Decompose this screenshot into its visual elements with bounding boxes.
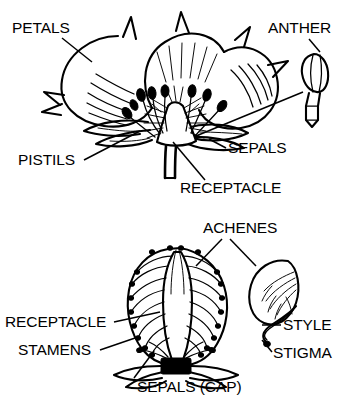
label-receptacle2: RECEPTACLE — [5, 313, 106, 330]
achene-dot — [128, 296, 133, 301]
achene-detail-drawing — [249, 260, 298, 346]
label-stigma: STIGMA — [273, 344, 333, 361]
anther-oval — [147, 86, 156, 99]
achene-dot — [131, 324, 136, 329]
anther-detail-drawing — [302, 54, 328, 127]
label-sepals: SEPALS — [228, 139, 287, 156]
achene-dot — [215, 324, 220, 329]
anther-oval — [187, 84, 196, 97]
botanical-figure: PETALS PISTILS ANTHER SEPALS RECEPTACLE — [0, 0, 354, 417]
dried-anther — [136, 347, 144, 354]
petal-right — [199, 47, 278, 128]
achene-dot — [219, 296, 224, 301]
flower-leader-lines — [62, 38, 320, 180]
leader-anther-long — [196, 92, 303, 136]
calyx-block — [161, 358, 191, 374]
achene-dot — [178, 246, 183, 251]
label-style: STYLE — [283, 316, 332, 333]
petal-left — [61, 36, 152, 127]
achene-dot — [214, 270, 219, 275]
fruit-panel: ACHENES RECEPTACLE STAMENS SEPALS (CAP) … — [5, 219, 333, 395]
label-pistils: PISTILS — [18, 151, 75, 168]
leader-anther — [309, 39, 320, 52]
achene-dot — [129, 282, 134, 287]
achene-dot — [167, 246, 172, 251]
leader-stamens — [100, 337, 138, 350]
petal-center — [145, 34, 224, 108]
anther-oval — [161, 85, 169, 97]
fruit-pith-core — [163, 252, 192, 360]
leader-achenes-right — [230, 239, 256, 266]
leader-petals — [62, 38, 92, 62]
achene-dot — [128, 310, 133, 315]
achene-dot — [149, 250, 154, 255]
achene-dot — [218, 310, 223, 315]
label-anther: ANTHER — [268, 19, 331, 36]
label-stamens: STAMENS — [18, 341, 91, 358]
anther-oval — [128, 98, 139, 111]
label-petals: PETALS — [12, 19, 70, 36]
achene-dot — [198, 353, 203, 358]
achene-dot — [211, 336, 216, 341]
flower-stem — [165, 146, 176, 178]
label-receptacle: RECEPTACLE — [180, 179, 281, 196]
achene-dot — [195, 250, 200, 255]
achene-dot — [218, 282, 223, 287]
diagram-canvas: PETALS PISTILS ANTHER SEPALS RECEPTACLE — [0, 0, 354, 417]
label-achenes: ACHENES — [203, 219, 277, 236]
anther-oval — [201, 88, 212, 102]
label-sepals-cap: SEPALS (CAP) — [137, 378, 241, 395]
achene-dot — [134, 270, 139, 275]
flower-panel: PETALS PISTILS ANTHER SEPALS RECEPTACLE — [12, 12, 331, 196]
